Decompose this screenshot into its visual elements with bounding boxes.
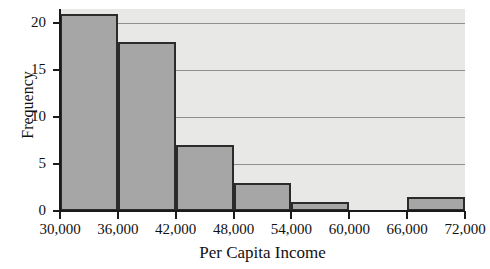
y-axis-tick bbox=[53, 163, 60, 165]
x-axis-tick-label: 30,000 bbox=[28, 221, 92, 237]
x-axis-tick bbox=[290, 211, 292, 219]
x-axis-tick bbox=[175, 211, 177, 219]
x-axis-tick bbox=[117, 211, 119, 219]
y-axis-tick-label: 20 bbox=[12, 15, 46, 30]
x-axis-tick-label: 54,000 bbox=[259, 221, 323, 237]
histogram-bar bbox=[407, 197, 465, 211]
x-axis-tick-label: 60,000 bbox=[317, 221, 381, 237]
x-axis-tick bbox=[406, 211, 408, 219]
x-axis-title: Per Capita Income bbox=[60, 243, 465, 263]
x-axis-tick bbox=[464, 211, 466, 219]
x-axis-tick bbox=[348, 211, 350, 219]
histogram-bar bbox=[118, 42, 176, 211]
y-axis-tick bbox=[53, 22, 60, 24]
y-axis-line bbox=[59, 9, 61, 212]
x-axis-tick-label: 36,000 bbox=[86, 221, 150, 237]
x-axis-tick-label: 48,000 bbox=[202, 221, 266, 237]
histogram-bar bbox=[176, 145, 234, 211]
x-axis-tick bbox=[233, 211, 235, 219]
y-axis-tick-label: 0 bbox=[12, 203, 46, 218]
y-axis-tick bbox=[53, 116, 60, 118]
histogram-bar bbox=[234, 183, 292, 211]
y-axis-title: Frequency bbox=[19, 30, 37, 180]
plot-area bbox=[60, 9, 465, 211]
gridline bbox=[60, 23, 465, 24]
x-axis-tick-label: 42,000 bbox=[144, 221, 208, 237]
x-axis-tick bbox=[59, 211, 61, 219]
x-axis-tick-label: 66,000 bbox=[375, 221, 439, 237]
y-axis-tick bbox=[53, 69, 60, 71]
x-axis-line bbox=[59, 210, 465, 212]
histogram-bar bbox=[60, 14, 118, 211]
x-axis-tick-label: 72,000 bbox=[433, 221, 490, 237]
